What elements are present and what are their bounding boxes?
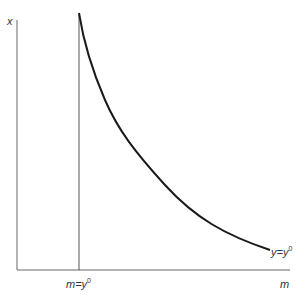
diagram-canvas [0, 0, 304, 296]
vline-label-base: m [66, 278, 75, 290]
y-axis-label-text: x [7, 15, 13, 27]
curve-label-eq: =y [277, 246, 289, 258]
curve-label-sup: 0 [288, 245, 292, 252]
vertical-line-label: m=y0 [66, 277, 91, 290]
vline-label-sup: 0 [87, 277, 91, 284]
x-axis-label: m [280, 279, 289, 290]
y-axis-label: x [7, 16, 13, 27]
vline-label-eq: =y [75, 278, 87, 290]
curve-y-eq-y0 [79, 13, 270, 250]
x-axis-label-text: m [280, 278, 289, 290]
curve-label: y=y0 [271, 245, 292, 258]
